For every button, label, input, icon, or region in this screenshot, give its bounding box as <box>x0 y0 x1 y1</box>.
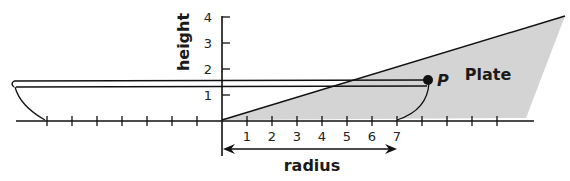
y-axis-ticks <box>222 17 230 95</box>
plate-label: Plate <box>465 65 512 84</box>
y-tick-label: 2 <box>204 62 212 77</box>
y-tick-label: 3 <box>204 36 212 51</box>
point-p-marker <box>423 75 433 85</box>
x-tick-label: 5 <box>343 129 351 144</box>
x-axis-label: radius <box>284 156 341 175</box>
x-tick-label: 4 <box>318 129 326 144</box>
y-tick-label: 4 <box>204 10 212 25</box>
point-p-label: P <box>437 71 449 90</box>
y-tick-label: 1 <box>204 88 212 103</box>
x-tick-label: 2 <box>268 129 276 144</box>
x-tick-label: 3 <box>293 129 301 144</box>
y-axis-label: height <box>174 13 193 72</box>
radius-height-diagram: 1 2 3 4 1 2 3 4 5 6 7 radius height P Pl… <box>0 0 570 181</box>
radius-arrow <box>223 144 397 154</box>
x-tick-label: 1 <box>243 129 251 144</box>
x-tick-label: 6 <box>368 129 376 144</box>
x-tick-label: 7 <box>393 129 401 144</box>
